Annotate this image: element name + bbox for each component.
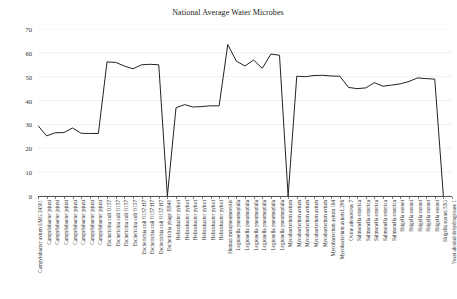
x-tick-label: Campylobacter jejuni <box>81 200 86 245</box>
y-tick-label: 30 <box>26 121 33 128</box>
x-tick-label: Escherichia coli O157 <box>124 200 129 246</box>
x-tick-mark <box>142 197 143 199</box>
x-tick-mark <box>176 197 177 199</box>
x-tick-mark <box>47 197 48 199</box>
x-tick-label: Mycobacterium avium 104 <box>331 200 336 256</box>
x-tick-mark <box>357 197 358 199</box>
x-tick-mark <box>452 197 453 199</box>
x-tick-mark <box>228 197 229 199</box>
plot-area <box>38 29 452 196</box>
x-tick-mark <box>305 197 306 199</box>
x-tick-mark <box>418 197 419 199</box>
y-tick-label: 70 <box>26 26 33 33</box>
x-tick-label: Shigella sonnei 53G <box>443 200 448 242</box>
x-tick-label: Legionella pneumophila <box>254 200 259 251</box>
x-tick-label: Mycobacterium avium <box>297 200 302 247</box>
x-tick-label: Escherichia phage EB49 <box>167 200 172 251</box>
chart-title: National Average Water Microbes <box>0 8 456 17</box>
x-tick-label: Legionella pneumophila <box>245 200 250 251</box>
x-tick-mark <box>409 197 410 199</box>
x-tick-mark <box>323 197 324 199</box>
x-tick-label: Helicobacter pylori <box>193 200 198 240</box>
y-tick-label: 0 <box>29 193 32 200</box>
x-tick-mark <box>443 197 444 199</box>
x-tick-label: Shigella sonnei <box>426 200 431 232</box>
x-tick-mark <box>90 197 91 199</box>
x-tick-label: Helicobacter pylori <box>219 200 224 240</box>
x-tick-mark <box>116 197 117 199</box>
x-tick-mark <box>185 197 186 199</box>
x-tick-label: Salmonella enterica <box>357 200 362 241</box>
x-tick-label: Shigella sonnei <box>435 200 440 232</box>
x-tick-mark <box>159 197 160 199</box>
x-tick-mark <box>297 197 298 199</box>
x-tick-mark <box>392 197 393 199</box>
x-tick-mark <box>340 197 341 199</box>
x-tick-label: Helicobacter pylori <box>185 200 190 240</box>
x-tick-mark <box>219 197 220 199</box>
x-tick-label: Legionella pneumophila <box>271 200 276 251</box>
x-tick-label: Mycobacterium avium <box>305 200 310 247</box>
x-tick-label: Mycobacterium avium L296 <box>340 200 345 259</box>
x-tick-label: Shigella sonnei <box>400 200 405 232</box>
x-tick-mark <box>435 197 436 199</box>
x-tick-mark <box>167 197 168 199</box>
data-series-line <box>38 29 452 196</box>
x-tick-label: Escherichia coli O157:H7 <box>159 200 164 254</box>
x-tick-mark <box>107 197 108 199</box>
x-tick-mark <box>400 197 401 199</box>
x-tick-label: Campylobacter jejuni <box>73 200 78 245</box>
x-tick-label: Salmonella enterica <box>374 200 379 241</box>
series-path <box>38 45 443 196</box>
x-tick-label: Campylobacter avium LMG 24591 <box>38 200 43 273</box>
y-tick-label: 40 <box>26 97 33 104</box>
x-tick-mark <box>202 197 203 199</box>
x-tick-mark <box>150 197 151 199</box>
x-tick-label: Yeast alcohol dehydrogenase 1 <box>452 200 457 264</box>
y-tick-label: 10 <box>26 169 33 176</box>
x-tick-label: Ovine adenovirus 7 <box>349 200 354 241</box>
x-tick-label: Escherichia coli O157:H7 <box>150 200 155 254</box>
x-tick-label: Campylobacter jejuni <box>64 200 69 245</box>
x-tick-label: Helicobacter pylori <box>211 200 216 240</box>
x-axis: Campylobacter avium LMG 24591Campylobact… <box>38 197 452 297</box>
x-tick-mark <box>98 197 99 199</box>
x-tick-label: Escherichia coli O157 <box>133 200 138 246</box>
x-tick-label: Escherichia coli O157:H7 <box>142 200 147 254</box>
x-tick-label: Legionella pneumophila <box>280 200 285 251</box>
y-axis: 010203040506070 <box>0 29 36 196</box>
x-tick-label: Helicobacter pylori <box>176 200 181 240</box>
x-tick-label: Salmonella enterica <box>366 200 371 241</box>
x-tick-label: Campylobacter jejuni <box>90 200 95 245</box>
x-tick-mark <box>193 197 194 199</box>
x-tick-label: Shigella sonnei <box>409 200 414 232</box>
x-tick-label: Mycobacterium avium <box>323 200 328 247</box>
x-tick-mark <box>383 197 384 199</box>
x-tick-label: Campylobacter jejuni <box>47 200 52 245</box>
x-tick-label: Mycobacterium avium <box>314 200 319 247</box>
x-tick-mark <box>331 197 332 199</box>
x-tick-mark <box>55 197 56 199</box>
x-tick-label: Campylobacter jejuni <box>98 200 103 245</box>
y-tick-label: 60 <box>26 49 33 56</box>
x-tick-mark <box>288 197 289 199</box>
x-tick-mark <box>314 197 315 199</box>
x-tick-mark <box>73 197 74 199</box>
y-tick-label: 20 <box>26 145 33 152</box>
x-tick-mark <box>211 197 212 199</box>
x-tick-label: Escherichia coli O157 <box>107 200 112 246</box>
x-tick-mark <box>374 197 375 199</box>
x-tick-mark <box>133 197 134 199</box>
x-tick-label: Shigella sonnei <box>418 200 423 232</box>
x-tick-label: Helicobacter pylori <box>202 200 207 240</box>
x-tick-mark <box>81 197 82 199</box>
y-tick-label: 50 <box>26 73 33 80</box>
x-tick-label: Salmonella enterica <box>392 200 397 241</box>
x-tick-label: Salmonella enterica <box>383 200 388 241</box>
x-tick-mark <box>124 197 125 199</box>
x-tick-label: Legionella pneumophila <box>236 200 241 251</box>
x-tick-label: Campylobacter jejuni <box>55 200 60 245</box>
x-tick-label: Escherichia coli O157 <box>116 200 121 246</box>
x-tick-mark <box>38 197 39 199</box>
